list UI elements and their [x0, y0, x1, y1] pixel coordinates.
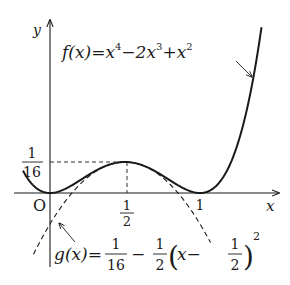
f-label-exp3: 2 — [186, 41, 192, 52]
g-frac2-num: 1 — [156, 236, 165, 252]
g-frac1-num: 1 — [112, 236, 121, 252]
tick-half-numerator: 1 — [123, 198, 131, 213]
g-frac3-num: 1 — [231, 236, 240, 252]
g-frac3-den: 2 — [231, 257, 240, 273]
origin-label: O — [33, 196, 46, 215]
f-pointer-arrow — [236, 61, 252, 77]
g-inner: x− — [177, 244, 201, 264]
g-frac2-den: 2 — [156, 257, 165, 273]
tick-1-16-denominator: 16 — [23, 164, 41, 180]
function-graph: y x O 1 16 1 2 1 f(x)=x4−2x3+x2 g(x)= 1 … — [0, 0, 290, 285]
tick-one-label: 1 — [196, 197, 205, 213]
f-label-prefix: f(x)=x — [60, 42, 115, 62]
tick-1-16-numerator: 1 — [28, 145, 37, 161]
f-formula-label: f(x)=x4−2x3+x2 — [60, 41, 193, 62]
g-label-prefix: g(x)= — [54, 244, 102, 264]
g-minus: − — [131, 244, 145, 264]
g-exponent: 2 — [253, 230, 260, 243]
g-pointer-arrow — [59, 223, 75, 242]
y-axis-label: y — [32, 22, 42, 38]
f-label-mid: −2x — [121, 42, 156, 62]
f-label-mid2: +x — [162, 42, 186, 62]
g-frac1-den: 16 — [107, 257, 125, 273]
tick-half-denominator: 2 — [123, 214, 131, 229]
x-axis-label: x — [266, 197, 275, 215]
g-paren-close: ) — [243, 240, 254, 273]
